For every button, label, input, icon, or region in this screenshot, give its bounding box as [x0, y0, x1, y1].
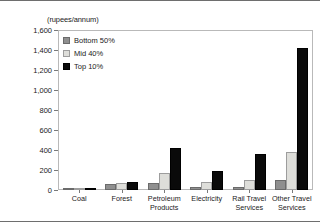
- legend-swatch-icon: [63, 37, 70, 44]
- top-rule: [0, 0, 320, 1]
- y-axis-tick-mark: [54, 190, 58, 191]
- bar: [116, 183, 127, 190]
- legend: Bottom 50%Mid 40%Top 10%: [63, 35, 153, 74]
- legend-item[interactable]: Bottom 50%: [63, 35, 153, 46]
- x-axis-tick-label-line: Services: [267, 204, 318, 213]
- x-axis-tick-mark: [249, 190, 250, 193]
- chart-figure: (rupees/annum) 02004006008001,0001,2001,…: [0, 0, 320, 222]
- bottom-rule: [0, 221, 320, 222]
- bar: [190, 187, 201, 191]
- y-axis-tick-label: 1,000: [22, 86, 52, 95]
- y-axis-tick-label: 1,200: [22, 66, 52, 75]
- legend-item[interactable]: Top 10%: [63, 61, 153, 72]
- bar-group: [275, 30, 308, 190]
- bar-group: [190, 30, 223, 190]
- bar: [105, 184, 116, 190]
- x-axis-tick-mark: [79, 190, 80, 193]
- bar: [255, 154, 266, 190]
- bar: [297, 48, 308, 190]
- bar: [170, 148, 181, 191]
- y-axis-unit-label: (rupees/annum): [47, 15, 99, 24]
- bar: [127, 182, 138, 191]
- bar: [286, 152, 297, 190]
- bar: [159, 173, 170, 190]
- y-axis-tick-label: 200: [22, 166, 52, 175]
- x-axis-tick-label-line: Products: [139, 204, 190, 213]
- legend-label: Mid 40%: [74, 49, 103, 58]
- bar: [275, 180, 286, 191]
- bar-group: [233, 30, 266, 190]
- bar: [244, 180, 255, 191]
- bar: [233, 187, 244, 190]
- legend-item[interactable]: Mid 40%: [63, 48, 153, 59]
- bar: [148, 183, 159, 190]
- legend-label: Top 10%: [74, 62, 103, 71]
- x-axis-tick-mark: [122, 190, 123, 193]
- legend-swatch-icon: [63, 63, 70, 70]
- y-axis-tick-label: 600: [22, 126, 52, 135]
- x-axis-tick-mark: [292, 190, 293, 193]
- y-axis-tick-label: 0: [22, 186, 52, 195]
- bar: [85, 188, 96, 191]
- legend-label: Bottom 50%: [74, 36, 115, 45]
- x-axis-tick-label: Other TravelServices: [267, 195, 318, 212]
- y-axis-tick-label: 400: [22, 146, 52, 155]
- bar: [212, 171, 223, 190]
- x-axis: CoalForestPetroleumProductsElectricityRa…: [58, 193, 313, 221]
- bar: [63, 188, 74, 190]
- y-axis-tick-label: 1,600: [22, 26, 52, 35]
- y-axis-tick-label: 800: [22, 106, 52, 115]
- x-axis-tick-mark: [207, 190, 208, 193]
- legend-swatch-icon: [63, 50, 70, 57]
- x-axis-tick-mark: [164, 190, 165, 193]
- bar: [201, 182, 212, 190]
- y-axis-tick-label: 1,400: [22, 46, 52, 55]
